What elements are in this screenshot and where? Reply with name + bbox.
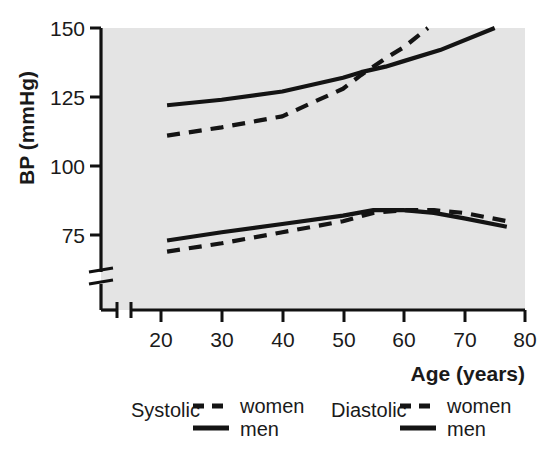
legend-group-label-systolic: Systolic <box>131 399 200 421</box>
y-axis-ticks <box>90 28 101 235</box>
legend-group-systolic: Systolic women men <box>131 395 304 440</box>
x-tick-label-80: 80 <box>513 328 536 351</box>
y-tick-label-125: 125 <box>50 86 85 109</box>
y-tick-label-150: 150 <box>50 17 85 40</box>
legend-label-systolic-women: women <box>239 395 304 417</box>
chart-canvas: 150 125 100 75 BP (mmHg) 20 30 40 50 60 … <box>0 0 560 465</box>
legend-label-diastolic-women: women <box>446 395 511 417</box>
x-tick-label-30: 30 <box>210 328 233 351</box>
legend-group-label-diastolic: Diastolic <box>331 399 407 421</box>
blood-pressure-figure: 150 125 100 75 BP (mmHg) 20 30 40 50 60 … <box>0 0 560 465</box>
y-tick-label-75: 75 <box>62 224 85 247</box>
x-axis-title: Age (years) <box>411 362 525 385</box>
x-tick-label-60: 60 <box>392 328 415 351</box>
y-tick-label-100: 100 <box>50 155 85 178</box>
chart-legend: Systolic women men Diastolic women men <box>131 395 511 440</box>
x-tick-label-50: 50 <box>332 328 355 351</box>
legend-label-diastolic-men: men <box>447 418 486 440</box>
x-tick-label-40: 40 <box>271 328 294 351</box>
x-tick-label-20: 20 <box>149 328 172 351</box>
y-axis-title: BP (mmHg) <box>15 71 38 185</box>
x-tick-label-70: 70 <box>453 328 476 351</box>
x-axis-ticks <box>161 310 525 322</box>
plot-background <box>101 28 525 310</box>
legend-label-systolic-men: men <box>240 418 279 440</box>
legend-group-diastolic: Diastolic women men <box>331 395 511 440</box>
